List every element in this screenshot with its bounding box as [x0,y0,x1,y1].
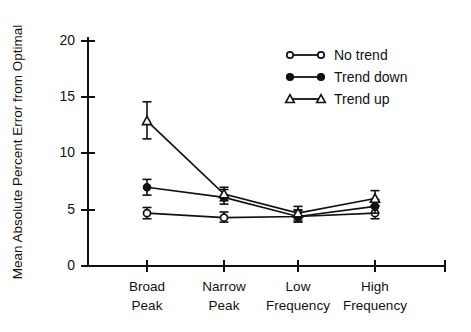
chart-canvas: Mean Absolute Percent Error from Optimal… [0,0,471,332]
y-axis-title-group: Mean Absolute Percent Error from Optimal [10,25,25,279]
data-point-open-circle-icon [144,210,151,217]
x-axis: Broad Peak Narrow Peak Low Frequency Hig… [88,260,445,313]
legend-item-trend-up: Trend up [286,91,390,107]
chart-figure: Mean Absolute Percent Error from Optimal… [0,0,471,332]
legend-open-triangle-icon [286,95,295,103]
x-tick-label-broad-peak-line2: Peak [132,298,163,313]
y-tick-label-5: 5 [67,201,75,217]
data-point-open-circle-icon [221,214,228,221]
legend-label: Trend up [334,91,390,107]
y-axis: 20 15 10 5 0 [59,32,95,273]
legend-open-circle-icon [287,52,293,58]
series-line [147,187,375,216]
series-trend-up [142,102,379,219]
data-point-open-triangle-icon [370,194,379,202]
y-tick-label-20: 20 [59,32,75,48]
series-line [147,213,375,218]
x-tick-label-high-frequency-line1: High [361,279,389,294]
legend-filled-circle-icon [318,74,325,81]
legend-open-triangle-icon [317,95,326,103]
y-tick-label-0: 0 [67,257,75,273]
y-tick-label-10: 10 [59,144,75,160]
x-tick-label-high-frequency-line2: Frequency [343,298,407,313]
legend-label: No trend [334,47,388,63]
chart-legend: No trendTrend downTrend up [286,47,408,107]
x-tick-label-narrow-peak-line1: Narrow [202,279,246,294]
x-tick-label-broad-peak-line1: Broad [129,279,165,294]
legend-open-circle-icon [318,52,324,58]
legend-filled-circle-icon [287,74,294,81]
legend-label: Trend down [334,69,407,85]
y-axis-tick-labels: 20 15 10 5 0 [59,32,75,273]
legend-item-no-trend: No trend [287,47,388,63]
series-no-trend [143,206,380,222]
data-point-open-triangle-icon [142,116,151,124]
y-tick-label-15: 15 [59,88,75,104]
series-line [147,121,375,213]
plot-series-layer [142,102,379,222]
x-tick-label-low-frequency-line1: Low [286,279,311,294]
y-axis-title: Mean Absolute Percent Error from Optimal [10,25,25,279]
legend-item-trend-down: Trend down [287,69,408,85]
x-tick-label-low-frequency-line2: Frequency [266,298,330,313]
x-axis-tick-labels: Broad Peak Narrow Peak Low Frequency Hig… [129,279,407,313]
x-tick-label-narrow-peak-line2: Peak [209,298,240,313]
data-point-filled-circle-icon [143,184,150,191]
